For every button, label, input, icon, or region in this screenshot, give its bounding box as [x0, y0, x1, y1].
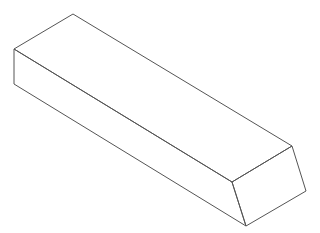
top-face: [14, 14, 292, 182]
end-face: [232, 146, 306, 226]
prism-diagram: [0, 0, 320, 233]
side-face: [14, 49, 246, 226]
